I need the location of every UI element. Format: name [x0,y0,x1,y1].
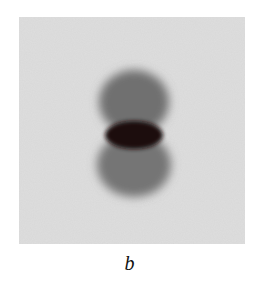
density-photograph [19,17,245,244]
figure-panel-b: b [0,0,259,282]
orbital-density-image [19,17,245,244]
panel-label: b [0,252,259,275]
center-band [105,121,163,149]
